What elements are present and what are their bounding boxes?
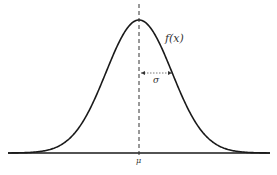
sigma-label: σ [153,75,160,85]
mean-label: μ [136,156,141,165]
curve-label: f(x) [164,32,184,45]
normal-curve-diagram: f(x) σ μ [0,0,277,175]
